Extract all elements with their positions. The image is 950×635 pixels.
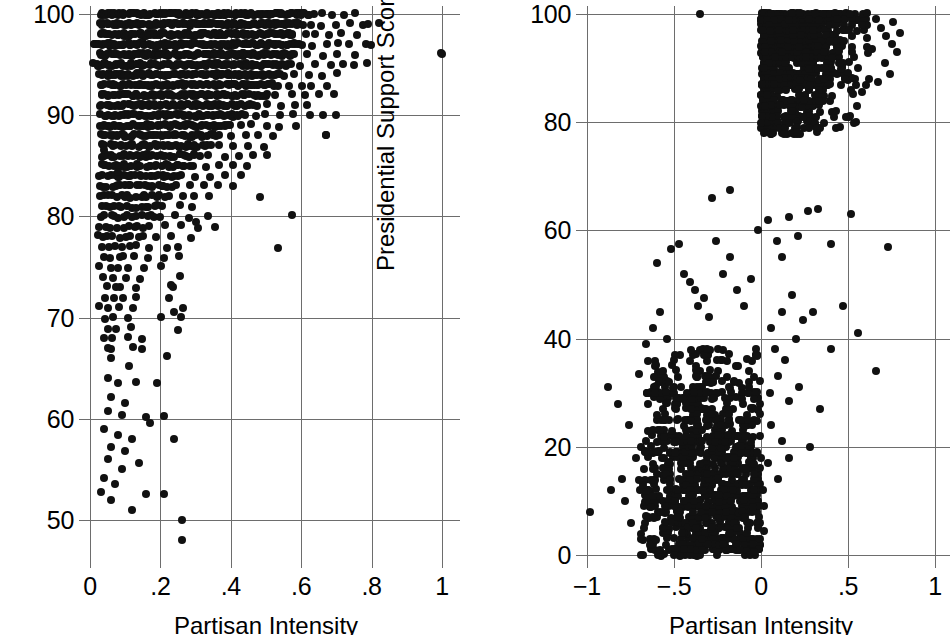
data-point xyxy=(722,454,730,462)
data-point xyxy=(214,181,222,189)
data-point xyxy=(773,237,781,245)
data-point xyxy=(710,394,718,402)
data-point xyxy=(827,240,835,248)
data-point xyxy=(698,437,706,445)
gridline-vertical xyxy=(935,6,936,568)
data-point xyxy=(726,253,734,261)
data-point xyxy=(221,153,229,161)
data-point xyxy=(332,21,340,29)
data-point xyxy=(614,400,622,408)
data-point xyxy=(160,254,168,262)
data-point xyxy=(670,551,678,559)
data-point xyxy=(696,460,704,468)
data-point xyxy=(737,416,745,424)
data-point xyxy=(828,54,836,62)
data-point xyxy=(296,62,304,70)
data-point xyxy=(703,357,711,365)
data-point xyxy=(756,432,764,440)
data-point xyxy=(782,86,790,94)
data-point xyxy=(686,278,694,286)
data-point xyxy=(138,345,146,353)
data-point xyxy=(186,181,194,189)
data-point xyxy=(743,529,751,537)
data-point xyxy=(107,496,115,504)
data-point xyxy=(307,82,315,90)
data-point xyxy=(767,421,775,429)
data-point xyxy=(99,273,107,281)
y-tick-mark xyxy=(79,216,90,217)
data-point xyxy=(745,383,753,391)
data-point xyxy=(706,366,714,374)
data-point xyxy=(766,389,774,397)
data-point xyxy=(351,51,359,59)
x-tick-label: .8 xyxy=(361,572,381,601)
data-point xyxy=(101,294,109,302)
data-point xyxy=(796,76,804,84)
data-point xyxy=(886,70,894,78)
data-point xyxy=(189,162,197,170)
data-point xyxy=(249,151,257,159)
data-point xyxy=(854,329,862,337)
data-point xyxy=(774,475,782,483)
x-tick-label: 0 xyxy=(754,572,768,601)
data-point xyxy=(884,243,892,251)
data-point xyxy=(694,302,702,310)
data-point xyxy=(227,132,235,140)
data-point xyxy=(188,203,196,211)
data-point xyxy=(322,131,330,139)
data-point xyxy=(121,447,129,455)
gridline-vertical xyxy=(301,6,302,568)
data-point xyxy=(114,168,122,176)
data-point xyxy=(140,264,148,272)
data-point xyxy=(303,50,311,58)
data-point xyxy=(157,262,165,270)
data-point xyxy=(805,124,813,132)
data-point xyxy=(157,313,165,321)
data-point xyxy=(215,161,223,169)
y-tick-label: 80 xyxy=(47,202,74,231)
data-point xyxy=(161,221,169,229)
data-point xyxy=(758,112,766,120)
data-point xyxy=(816,405,824,413)
data-point xyxy=(805,65,813,73)
x-tick-label: 0 xyxy=(83,572,97,601)
data-point xyxy=(243,162,251,170)
data-point xyxy=(753,449,761,457)
data-point xyxy=(649,426,657,434)
data-point xyxy=(288,90,296,98)
figure-root: 50607080901000.2.4.6.81 Party Unity Scor… xyxy=(0,0,950,635)
data-point xyxy=(889,18,897,26)
data-point xyxy=(627,519,635,527)
data-point xyxy=(872,15,880,23)
data-point xyxy=(805,15,813,23)
gridline-vertical xyxy=(231,6,232,568)
left-scatter-panel: 50607080901000.2.4.6.81 Party Unity Scor… xyxy=(0,0,475,635)
data-point xyxy=(760,502,768,510)
data-point xyxy=(750,460,758,468)
data-point xyxy=(114,264,122,272)
data-point xyxy=(703,345,711,353)
y-tick-mark xyxy=(79,419,90,420)
data-point xyxy=(637,535,645,543)
data-point xyxy=(315,90,323,98)
data-point xyxy=(126,232,134,240)
y-tick-label: 100 xyxy=(530,0,571,29)
data-point xyxy=(108,334,116,342)
y-tick-label: 50 xyxy=(47,506,74,535)
data-point xyxy=(644,400,652,408)
data-point xyxy=(714,514,722,522)
data-point xyxy=(673,513,681,521)
data-point xyxy=(202,163,210,171)
data-point xyxy=(826,37,834,45)
data-point xyxy=(847,210,855,218)
data-point xyxy=(104,374,112,382)
data-point xyxy=(635,370,643,378)
data-point xyxy=(785,213,793,221)
data-point xyxy=(660,433,668,441)
data-point xyxy=(778,48,786,56)
data-point xyxy=(112,325,120,333)
data-point xyxy=(174,326,182,334)
data-point xyxy=(305,71,313,79)
data-point xyxy=(705,313,713,321)
y-tick-mark xyxy=(79,14,90,15)
